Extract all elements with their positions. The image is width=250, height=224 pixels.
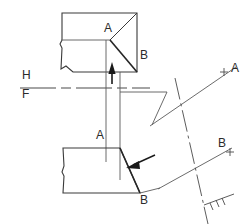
label-fold-H: H [22,69,31,81]
connector-path-group [120,92,167,125]
technical-drawing-canvas: A B H F A A B B [0,0,250,224]
plus-mark-B [226,148,234,156]
projection-lines-group [106,40,120,180]
label-bottom-A: A [96,129,104,141]
top-view-group [60,13,137,72]
top-connector-path [120,92,167,125]
label-fold-F: F [22,88,29,100]
label-top-A: A [104,22,112,34]
front-view-group [62,148,140,193]
auxiliary-ray-A [150,67,236,126]
top-view-edge-AB [110,40,137,72]
sight-direction-arrow-front [126,155,155,169]
front-view-outline [62,148,140,193]
top-view-outline [60,13,137,72]
sight-direction-arrow-top [108,62,115,84]
auxiliary-rays-group [140,67,236,193]
sight-arrow-top-head [108,62,115,74]
auxiliary-fold-line [175,78,208,224]
label-aux-B: B [218,137,226,149]
plus-mark-A [220,68,228,76]
projection-drawing-svg [0,0,250,224]
front-view-edge-AB [120,148,140,193]
label-bottom-B: B [140,194,148,206]
right-angle-hatch-mark [204,194,234,210]
label-aux-A: A [231,62,239,74]
label-top-B: B [140,49,148,61]
top-view-edge-A-upper [110,13,137,40]
auxiliary-fold-line-group [175,78,208,224]
